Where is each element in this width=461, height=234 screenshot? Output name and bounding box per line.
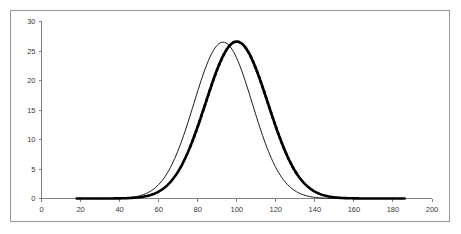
y-tick-label: 0 (31, 194, 35, 203)
y-tick-label: 10 (27, 135, 35, 144)
y-tick-label: 20 (27, 76, 35, 85)
x-tick-label: 20 (76, 205, 84, 214)
y-axis: 051015202530 (27, 17, 41, 203)
thick-distribution-curve (77, 42, 405, 199)
y-tick-label: 15 (27, 106, 35, 115)
x-tick-label: 0 (39, 205, 43, 214)
x-tick-label: 160 (348, 205, 361, 214)
x-tick-label: 200 (426, 205, 439, 214)
x-axis-ticks: 020406080100120140160180200 (39, 199, 438, 214)
y-tick-label: 5 (31, 165, 35, 174)
x-tick-label: 100 (230, 205, 243, 214)
x-tick-label: 80 (194, 205, 202, 214)
y-tick-label: 25 (27, 47, 35, 56)
x-tick-label: 120 (270, 205, 283, 214)
x-tick-label: 180 (387, 205, 400, 214)
x-tick-label: 140 (309, 205, 322, 214)
distribution-chart: 051015202530 020406080100120140160180200 (0, 0, 461, 234)
series-group (77, 42, 405, 199)
x-tick-label: 60 (154, 205, 162, 214)
y-axis-ticks: 051015202530 (27, 17, 41, 203)
x-axis: 020406080100120140160180200 (39, 199, 438, 214)
y-tick-label: 30 (27, 17, 35, 26)
x-tick-label: 40 (115, 205, 123, 214)
thin-distribution-curve (77, 42, 396, 198)
